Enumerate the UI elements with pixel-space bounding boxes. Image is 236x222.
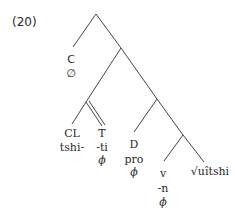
node-c-label: C [67, 54, 75, 65]
branch-cl [72, 102, 86, 124]
syntax-tree-diagram: (20) C ∅ CL tshi- T [0, 0, 236, 222]
node-d-content: ϕ [130, 167, 138, 178]
node-cl-exponent: tshi- [60, 142, 84, 153]
node-t-label: T [98, 128, 105, 139]
tree-branches [0, 0, 236, 222]
branch-node2-node3 [121, 48, 157, 99]
node-v-content: ϕ [159, 197, 167, 208]
branch-t-a [86, 102, 102, 126]
branch-root [183, 135, 204, 162]
node-t-content: ϕ [98, 155, 106, 166]
node-d-exponent: pro [125, 154, 144, 165]
node-v-label: v [160, 168, 166, 179]
node-c-exponent: ∅ [66, 68, 76, 79]
branch-root-right [96, 14, 121, 48]
branch-node2-clt [86, 48, 121, 102]
branch-d [134, 99, 157, 132]
node-v-exponent: -n [158, 183, 169, 194]
branch-root-c [73, 14, 96, 47]
node-cl-label: CL [64, 128, 80, 139]
node-t-exponent: -ti [96, 142, 108, 153]
branch-t-b [89, 101, 105, 125]
node-d-label: D [130, 139, 139, 150]
branch-v [164, 135, 183, 161]
node-root-label: √uîtshi [191, 166, 229, 177]
branch-node3-node4 [157, 99, 183, 135]
